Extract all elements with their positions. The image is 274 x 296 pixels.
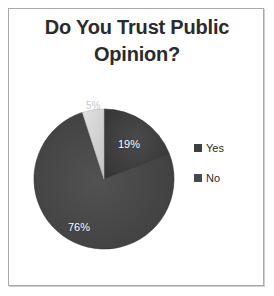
legend-label-no: No [206,173,220,184]
pie-chart: 19% 76% [32,107,176,251]
legend-swatch-icon-yes [194,144,202,152]
legend-swatch-icon-no [194,174,202,182]
legend-item-no[interactable]: No [194,171,264,185]
pie-chart-svg [32,107,176,251]
pie-slice-label-yes: 19% [118,138,140,150]
legend-label-yes: Yes [206,143,224,154]
slide-canvas: Do You Trust Public Opinion? 5% [0,0,274,296]
chart-plot-area: 5% [8,8,264,286]
legend-item-yes[interactable]: Yes [194,141,264,155]
chart-legend: Yes No [194,141,264,201]
pie-slice-label-no: 76% [68,221,90,233]
